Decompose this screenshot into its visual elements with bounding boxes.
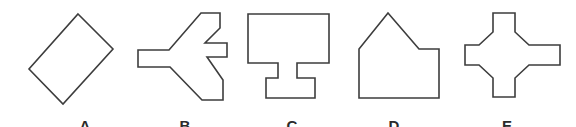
shape-canvas: ABCDE [0,0,576,127]
shape-c-label: C [287,117,298,127]
monitor-with-stand-shape [248,14,329,98]
house-with-ledge-shape [359,13,439,98]
left-pointing-jet-shape [138,13,227,100]
shapes-figure: ABCDE [0,0,576,127]
chamfered-cross-shape [465,13,560,97]
shape-b-label: B [180,117,191,127]
shape-e-label: E [502,117,512,127]
shape-a-label: A [80,117,91,127]
rotated-rectangle-shape [29,14,113,104]
shape-d-label: D [389,117,400,127]
